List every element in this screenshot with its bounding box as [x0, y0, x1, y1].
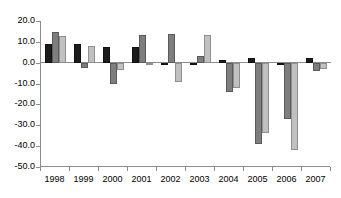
bar [262, 63, 269, 133]
bar [226, 63, 233, 93]
bar [291, 63, 298, 151]
bar [306, 58, 313, 63]
y-axis-tick-label: -10.0 [1, 79, 35, 88]
bar [197, 56, 204, 63]
bar [175, 63, 182, 82]
bar [161, 63, 168, 65]
x-axis-tick-mark [301, 167, 302, 171]
x-axis-tick-label: 2007 [296, 174, 336, 184]
bar [146, 63, 153, 65]
bar [313, 63, 320, 71]
y-axis-tick-label: 0.0 [1, 58, 35, 67]
bar [248, 58, 255, 63]
bar [81, 63, 88, 68]
bar [103, 47, 110, 63]
x-axis-tick-mark [98, 167, 99, 171]
y-axis-tick-label: -40.0 [1, 141, 35, 150]
bar [132, 47, 139, 63]
bar [219, 60, 226, 63]
y-axis-tick-label: 10.0 [1, 37, 35, 46]
x-axis-tick-mark [214, 167, 215, 171]
bar [284, 63, 291, 119]
bar [233, 63, 240, 88]
bar [204, 35, 211, 63]
x-axis-tick-mark [156, 167, 157, 171]
bar [117, 63, 124, 70]
bar [74, 44, 81, 63]
x-axis-tick-mark [127, 167, 128, 171]
bar [190, 63, 197, 65]
x-axis-tick-mark [243, 167, 244, 171]
y-axis-tick-label: -30.0 [1, 120, 35, 129]
x-axis-tick-mark [185, 167, 186, 171]
plot-area [40, 21, 330, 167]
bar [277, 63, 284, 65]
x-axis-tick-mark [40, 167, 41, 171]
bar [168, 34, 175, 63]
bar [255, 63, 262, 144]
bar-chart: 20.010.00.0-10.0-20.0-30.0-40.0-50.0 199… [0, 0, 341, 198]
y-axis-tick-label: -50.0 [1, 162, 35, 171]
bar [320, 63, 327, 69]
x-axis-tick-mark [69, 167, 70, 171]
y-axis-tick-label: 20.0 [1, 16, 35, 25]
bar [88, 46, 95, 63]
x-axis-tick-mark [330, 167, 331, 171]
bar [45, 44, 52, 63]
bar [110, 63, 117, 84]
bar [59, 36, 66, 63]
bar [52, 32, 59, 63]
bar [139, 35, 146, 63]
y-axis-tick-label: -20.0 [1, 99, 35, 108]
x-axis-tick-mark [272, 167, 273, 171]
